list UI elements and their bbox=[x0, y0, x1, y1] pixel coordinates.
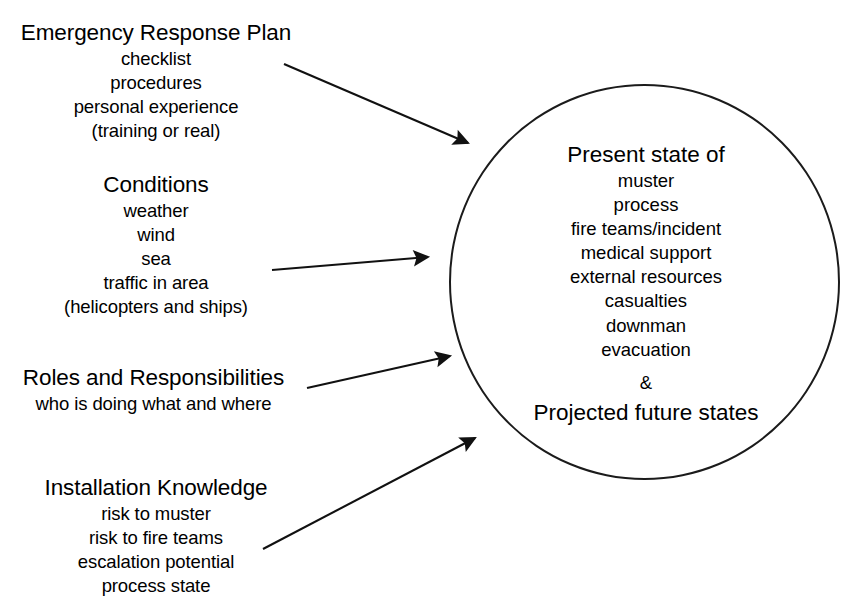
source-line: personal experience bbox=[6, 95, 306, 119]
circle-title: Present state of bbox=[470, 140, 822, 169]
source-line: weather bbox=[6, 199, 306, 223]
circle-footer: Projected future states bbox=[470, 398, 822, 427]
arrow-roles-and-responsibilities bbox=[307, 356, 450, 388]
arrow-emergency-response-plan bbox=[284, 64, 468, 143]
circle-item: casualties bbox=[470, 289, 822, 313]
diagram-canvas: Emergency Response Plan checklist proced… bbox=[0, 0, 855, 612]
source-heading: Roles and Responsibilities bbox=[6, 363, 301, 392]
source-block-emergency-response-plan: Emergency Response Plan checklist proced… bbox=[6, 18, 306, 143]
source-line: risk to fire teams bbox=[6, 526, 306, 550]
circle-item: medical support bbox=[470, 241, 822, 265]
circle-conjunction: & bbox=[470, 371, 822, 395]
source-line: (training or real) bbox=[6, 119, 306, 143]
source-line: process state bbox=[6, 574, 306, 598]
circle-item: external resources bbox=[470, 265, 822, 289]
source-line: checklist bbox=[6, 47, 306, 71]
source-block-conditions: Conditions weather wind sea traffic in a… bbox=[6, 170, 306, 319]
source-line: procedures bbox=[6, 71, 306, 95]
source-line: wind bbox=[6, 223, 306, 247]
source-line: (helicopters and ships) bbox=[6, 295, 306, 319]
source-heading: Emergency Response Plan bbox=[6, 18, 306, 47]
circle-item: muster bbox=[470, 169, 822, 193]
source-line: traffic in area bbox=[6, 271, 306, 295]
circle-item: downman bbox=[470, 314, 822, 338]
circle-item: process bbox=[470, 193, 822, 217]
source-heading: Conditions bbox=[6, 170, 306, 199]
source-line: risk to muster bbox=[6, 502, 306, 526]
source-heading: Installation Knowledge bbox=[6, 473, 306, 502]
circle-content: Present state of muster process fire tea… bbox=[470, 140, 822, 427]
source-line: sea bbox=[6, 247, 306, 271]
circle-item: evacuation bbox=[470, 338, 822, 362]
source-line: who is doing what and where bbox=[6, 392, 301, 416]
circle-item: fire teams/incident bbox=[470, 217, 822, 241]
source-line: escalation potential bbox=[6, 550, 306, 574]
source-block-installation-knowledge: Installation Knowledge risk to muster ri… bbox=[6, 473, 306, 598]
source-block-roles-and-responsibilities: Roles and Responsibilities who is doing … bbox=[6, 363, 301, 416]
